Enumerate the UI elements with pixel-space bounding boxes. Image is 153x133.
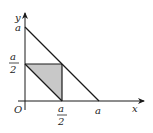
y-tick-half-numerator: a: [10, 51, 16, 62]
y-tick-half-denominator: 2: [9, 64, 16, 75]
x-tick-half-denominator: 2: [57, 116, 64, 127]
origin-label: O: [14, 104, 22, 115]
x-axis-label: x: [132, 103, 138, 114]
y-tick-a: a: [15, 22, 21, 33]
geometry-diagram: y x O a a a 2 a 2: [0, 0, 153, 133]
x-tick-a: a: [95, 105, 101, 116]
x-tick-half-numerator: a: [58, 103, 64, 114]
